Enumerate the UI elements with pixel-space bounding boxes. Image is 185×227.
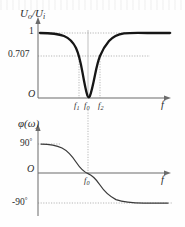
phase-y-axis-label: φ(ω) (18, 118, 39, 129)
magnitude-xtick-f1: f1 (74, 101, 79, 111)
magnitude-response-curve (40, 33, 170, 97)
figure-root: Uo/Ui 1 0.707 O f1 f0 f2 f φ(ω) 90° O f0… (0, 0, 185, 227)
magnitude-y-label-sub-in: i (43, 12, 45, 21)
phase-ytick-minus90-value: -90 (12, 197, 25, 207)
magnitude-y-label-u-out: U (20, 7, 28, 19)
phase-x-axis-label: f (161, 175, 164, 186)
phase-ytick-minus90: -90° (12, 197, 27, 208)
phase-panel (35, 110, 172, 216)
phase-origin-label: O (27, 164, 34, 174)
phase-x-axis-arrow (164, 170, 171, 175)
phase-xtick-f0-sub: 0 (86, 180, 89, 186)
magnitude-y-label-mid: /U (32, 7, 43, 19)
phase-ytick-plus90-degree: ° (30, 137, 33, 144)
magnitude-origin-label: O (28, 89, 35, 99)
magnitude-xtick-f1-sub: 1 (76, 105, 79, 111)
magnitude-xtick-f2: f2 (98, 101, 103, 111)
phase-ytick-minus90-degree: ° (25, 196, 28, 203)
magnitude-xtick-f0-sub: 0 (86, 105, 89, 111)
magnitude-ytick-0707: 0.707 (8, 50, 29, 60)
magnitude-xtick-f2-sub: 2 (100, 105, 103, 111)
frequency-response-figure (0, 0, 185, 227)
phase-xtick-f0: f0 (84, 176, 89, 186)
magnitude-x-axis-arrow (164, 95, 171, 100)
magnitude-xtick-f0: f0 (84, 101, 89, 111)
magnitude-x-axis-label: f (161, 100, 164, 111)
phase-ytick-plus90: 90° (20, 138, 32, 149)
phase-ytick-plus90-value: 90 (20, 138, 30, 148)
magnitude-y-axis-label: Uo/Ui (20, 8, 45, 21)
magnitude-panel (35, 17, 172, 101)
magnitude-ytick-unity: 1 (29, 27, 34, 37)
